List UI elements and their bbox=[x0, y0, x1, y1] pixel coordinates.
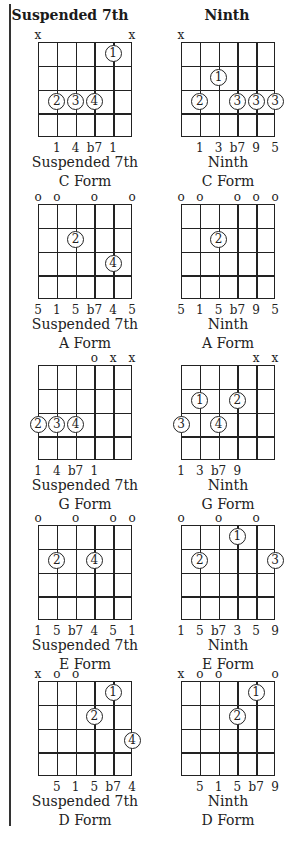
muted-string-icon: x bbox=[126, 352, 138, 364]
interval-label: 4 bbox=[84, 625, 104, 637]
chord-form: C Form bbox=[153, 173, 297, 189]
interval-label: b7 bbox=[209, 465, 229, 477]
open-string-icon: o bbox=[250, 512, 262, 524]
fret-line bbox=[182, 596, 274, 598]
interval-label: 5 bbox=[209, 304, 229, 316]
fret-line bbox=[39, 113, 131, 115]
finger-dot: 3 bbox=[248, 93, 265, 110]
open-string-icon: o bbox=[213, 668, 225, 680]
interval-label: 5 bbox=[47, 781, 67, 793]
finger-dot: 3 bbox=[173, 416, 190, 433]
open-string-icon: o bbox=[269, 191, 281, 203]
fret-line bbox=[182, 549, 274, 551]
chord-name: Ninth bbox=[153, 154, 297, 170]
muted-string-icon: x bbox=[126, 29, 138, 41]
fret-line bbox=[39, 90, 131, 92]
interval-label: b7 bbox=[66, 625, 86, 637]
interval-label: b7 bbox=[209, 625, 229, 637]
fret-line bbox=[182, 436, 274, 438]
fret-line bbox=[182, 752, 274, 754]
fret-line bbox=[39, 228, 131, 230]
finger-dot: 2 bbox=[229, 392, 246, 409]
finger-dot: 3 bbox=[67, 93, 84, 110]
interval-label: 4 bbox=[47, 465, 67, 477]
chord-name: Suspended 7th bbox=[10, 477, 160, 493]
left-margin-rule bbox=[9, 4, 11, 826]
fret-line bbox=[182, 66, 274, 68]
chord-name: Suspended 7th bbox=[10, 793, 160, 809]
interval-label: 1 bbox=[47, 142, 67, 154]
fret-line bbox=[182, 228, 274, 230]
finger-dot: 3 bbox=[229, 93, 246, 110]
interval-label: 5 bbox=[122, 304, 142, 316]
fret-line bbox=[39, 729, 131, 731]
finger-dot: 4 bbox=[210, 416, 227, 433]
interval-label: b7 bbox=[84, 304, 104, 316]
interval-label: b7 bbox=[227, 304, 247, 316]
finger-dot: 3 bbox=[267, 552, 284, 569]
interval-label: 1 bbox=[103, 142, 123, 154]
open-string-icon: o bbox=[51, 191, 63, 203]
interval-label: 5 bbox=[84, 781, 104, 793]
fret-line bbox=[182, 413, 274, 415]
interval-label: 5 bbox=[265, 142, 285, 154]
interval-label: 4 bbox=[103, 304, 123, 316]
open-string-icon: o bbox=[194, 668, 206, 680]
interval-label: b7 bbox=[227, 142, 247, 154]
fret-line bbox=[39, 436, 131, 438]
muted-string-icon: x bbox=[175, 668, 187, 680]
open-string-icon: o bbox=[269, 668, 281, 680]
interval-label: 1 bbox=[122, 625, 142, 637]
fret-line bbox=[182, 573, 274, 575]
chord-name: Suspended 7th bbox=[10, 154, 160, 170]
interval-label: 9 bbox=[246, 142, 266, 154]
fretboard-grid bbox=[181, 42, 275, 137]
interval-label: 4 bbox=[66, 142, 86, 154]
open-string-icon: o bbox=[213, 512, 225, 524]
muted-string-icon: x bbox=[269, 352, 281, 364]
interval-label: b7 bbox=[103, 781, 123, 793]
interval-label: b7 bbox=[84, 142, 104, 154]
interval-label: 1 bbox=[209, 781, 229, 793]
finger-dot: 4 bbox=[124, 732, 141, 749]
open-string-icon: o bbox=[32, 512, 44, 524]
finger-dot: 4 bbox=[105, 255, 122, 272]
finger-dot: 2 bbox=[86, 708, 103, 725]
fretboard-grid bbox=[38, 365, 132, 460]
muted-string-icon: x bbox=[32, 29, 44, 41]
interval-label: 1 bbox=[190, 304, 210, 316]
open-string-icon: o bbox=[51, 668, 63, 680]
column-title-ninth: Ninth bbox=[157, 7, 297, 23]
fret-line bbox=[182, 113, 274, 115]
interval-label: 5 bbox=[265, 304, 285, 316]
fret-line bbox=[182, 389, 274, 391]
interval-label: 4 bbox=[122, 781, 142, 793]
interval-label: 1 bbox=[28, 465, 48, 477]
fret-line bbox=[182, 275, 274, 277]
fretboard-grid bbox=[38, 204, 132, 299]
interval-label: 1 bbox=[47, 304, 67, 316]
interval-label: 1 bbox=[84, 465, 104, 477]
open-string-icon: o bbox=[231, 191, 243, 203]
finger-dot: 4 bbox=[67, 416, 84, 433]
open-string-icon: o bbox=[250, 191, 262, 203]
muted-string-icon: x bbox=[32, 668, 44, 680]
fret-line bbox=[182, 252, 274, 254]
interval-label: 5 bbox=[190, 625, 210, 637]
fret-line bbox=[39, 389, 131, 391]
open-string-icon: o bbox=[107, 512, 119, 524]
finger-dot: 4 bbox=[86, 93, 103, 110]
finger-dot: 3 bbox=[267, 93, 284, 110]
fret-line bbox=[39, 549, 131, 551]
fretboard-grid bbox=[181, 204, 275, 299]
interval-label: 9 bbox=[246, 304, 266, 316]
open-string-icon: o bbox=[32, 191, 44, 203]
interval-label: b7 bbox=[66, 465, 86, 477]
chord-form: G Form bbox=[153, 496, 297, 512]
interval-label: 5 bbox=[28, 304, 48, 316]
fretboard-grid bbox=[181, 365, 275, 460]
chord-name: Suspended 7th bbox=[10, 637, 160, 653]
fret-line bbox=[39, 413, 131, 415]
interval-label: b7 bbox=[246, 781, 266, 793]
interval-label: 5 bbox=[246, 625, 266, 637]
